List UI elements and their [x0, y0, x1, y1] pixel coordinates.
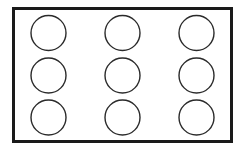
circle-grid-diagram [0, 0, 237, 147]
diagram-canvas [0, 0, 237, 147]
outer-frame [14, 9, 232, 142]
